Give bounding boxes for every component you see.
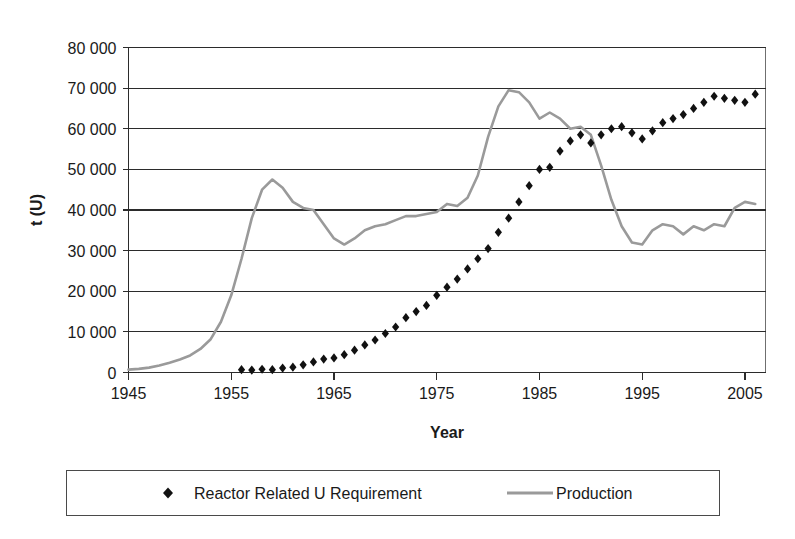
y-tick-label-70000: 70 000 (68, 80, 117, 97)
x-tick-label-2005: 2005 (727, 385, 763, 402)
y-tick-label-80000: 80 000 (68, 40, 117, 57)
legend-label-production: Production (556, 485, 633, 502)
chart-legend: Reactor Related U Requirement Production (67, 471, 720, 516)
x-tick-label-1945: 1945 (111, 385, 147, 402)
x-tick-label-1985: 1985 (522, 385, 558, 402)
chart-background (0, 0, 795, 539)
y-tick-label-30000: 30 000 (68, 243, 117, 260)
x-tick-label-1965: 1965 (316, 385, 352, 402)
y-tick-label-40000: 40 000 (68, 202, 117, 219)
y-tick-label-20000: 20 000 (68, 283, 117, 300)
y-axis-title: t (U) (28, 194, 45, 226)
uranium-production-vs-requirement-chart: 010 00020 00030 00040 00050 00060 00070 … (0, 0, 795, 539)
x-tick-label-1955: 1955 (213, 385, 249, 402)
x-tick-label-1975: 1975 (419, 385, 455, 402)
chart-figure: 010 00020 00030 00040 00050 00060 00070 … (0, 0, 795, 539)
y-tick-label-50000: 50 000 (68, 161, 117, 178)
y-axis-tick-labels: 010 00020 00030 00040 00050 00060 00070 … (68, 40, 117, 382)
y-tick-label-60000: 60 000 (68, 121, 117, 138)
y-tick-label-0: 0 (108, 365, 117, 382)
x-tick-label-1995: 1995 (624, 385, 660, 402)
y-tick-label-10000: 10 000 (68, 324, 117, 341)
legend-label-requirement: Reactor Related U Requirement (194, 485, 422, 502)
x-axis-title: Year (430, 424, 464, 441)
